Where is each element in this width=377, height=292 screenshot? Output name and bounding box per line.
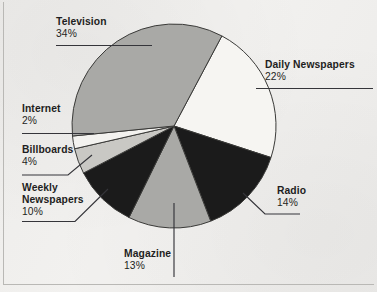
slice-label-internet-name: Internet [22, 103, 61, 115]
slice-label-billboards: Billboards 4% [22, 144, 73, 168]
slice-label-radio: Radio 14% [277, 185, 306, 209]
slice-label-magazine: Magazine 13% [124, 248, 171, 272]
slice-label-television-name: Television [56, 16, 107, 28]
slice-label-internet: Internet 2% [22, 103, 61, 127]
slice-label-billboards-value: 4% [22, 156, 73, 168]
slice-label-television: Television 34% [56, 16, 107, 40]
slice-label-magazine-name: Magazine [124, 248, 171, 260]
slice-label-weekly-newspapers: Weekly Newspapers 10% [22, 182, 84, 218]
slice-label-daily-newspapers-value: 22% [265, 71, 355, 83]
slice-label-internet-value: 2% [22, 115, 61, 127]
pie-chart-figure: Television 34% Daily Newspapers 22% Radi… [0, 0, 377, 292]
slice-label-television-value: 34% [56, 28, 107, 40]
slice-label-daily-newspapers-name: Daily Newspapers [265, 59, 355, 71]
slice-label-billboards-name: Billboards [22, 144, 73, 156]
slice-label-radio-value: 14% [277, 197, 306, 209]
slice-label-radio-name: Radio [277, 185, 306, 197]
slice-label-weekly-newspapers-value: 10% [22, 206, 84, 218]
slice-label-magazine-value: 13% [124, 260, 171, 272]
slice-label-daily-newspapers: Daily Newspapers 22% [265, 59, 355, 83]
pie-slices-group [72, 24, 276, 228]
slice-label-weekly-newspapers-name-line1: Weekly [22, 182, 84, 194]
slice-label-weekly-newspapers-name-line2: Newspapers [22, 194, 84, 206]
